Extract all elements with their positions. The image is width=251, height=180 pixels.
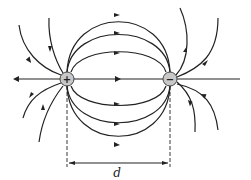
lower-field-lines [67,86,170,147]
axis-field-line [16,76,240,82]
negative-charge: − [163,72,177,86]
dipole-diagram: + − d [0,0,251,180]
positive-sign: + [63,74,71,85]
distance-label: d [113,166,121,180]
negative-outer-field-lines [176,8,218,132]
upper-field-lines [67,13,170,72]
negative-sign: − [166,74,174,85]
positive-charge: + [60,72,74,86]
positive-outer-field-lines [19,18,63,142]
